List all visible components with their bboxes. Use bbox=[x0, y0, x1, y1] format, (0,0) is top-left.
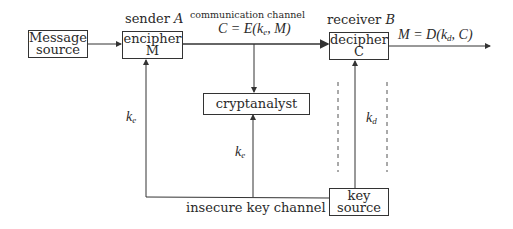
key-kd-label: kd bbox=[366, 111, 377, 128]
decipher-input-var: C bbox=[354, 46, 364, 58]
message-source-box: Message source bbox=[28, 30, 88, 58]
decipher-box: decipher C bbox=[329, 32, 389, 60]
insecure-key-channel-label: insecure key channel bbox=[186, 201, 326, 215]
encipher-input-var: M bbox=[146, 45, 159, 57]
key-source-box: key source bbox=[329, 188, 389, 216]
key-ke-center-label: ke bbox=[235, 145, 245, 162]
key-ke-left-label: ke bbox=[126, 110, 136, 127]
channel-formula: C = E(ke, M) bbox=[218, 22, 291, 39]
cryptanalyst-box: cryptanalyst bbox=[203, 93, 310, 115]
message-source-line2: source bbox=[36, 44, 80, 56]
encipher-box: encipher M bbox=[122, 31, 183, 59]
receiver-label: receiver B bbox=[327, 13, 395, 27]
key-source-line2: source bbox=[337, 202, 381, 214]
line-insecure-key-channel bbox=[146, 60, 329, 198]
cryptanalyst-label: cryptanalyst bbox=[216, 98, 298, 110]
channel-caption: communication channel bbox=[190, 8, 305, 22]
output-formula: M = D(kd, C) bbox=[398, 28, 473, 45]
sender-label: sender A bbox=[125, 12, 184, 26]
